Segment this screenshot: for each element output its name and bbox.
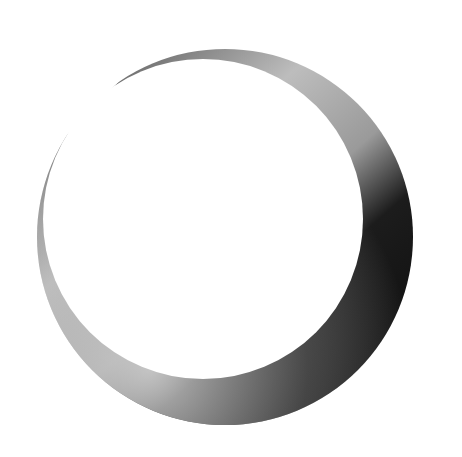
crescent-moon-icon (0, 0, 462, 457)
crescent-shape (37, 49, 413, 425)
